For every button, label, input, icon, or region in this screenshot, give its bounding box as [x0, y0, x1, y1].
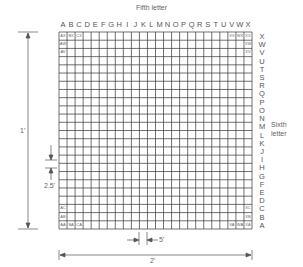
- cell-label: CA: [75, 221, 83, 229]
- cell-label: BX: [67, 32, 75, 40]
- column-width-label: 5': [159, 236, 164, 243]
- cell-label: XC: [244, 204, 252, 212]
- cell-label: WA: [236, 221, 244, 229]
- cell-label: WX: [236, 32, 244, 40]
- cell-label: XA: [244, 221, 252, 229]
- cell-label: AX: [59, 32, 67, 40]
- cell-label: BA: [67, 221, 75, 229]
- vertical-total-label: 1': [20, 127, 25, 134]
- cell-label: AC: [59, 204, 67, 212]
- row-height-dimension: [45, 145, 57, 180]
- cell-label: AB: [59, 213, 67, 221]
- grid-diagram: [0, 0, 303, 267]
- cell-label: XW: [244, 40, 252, 48]
- cell-label: VX: [228, 32, 236, 40]
- cell-label: CX: [75, 32, 83, 40]
- row-height-label: 2.5': [44, 182, 55, 189]
- cell-label: AV: [59, 48, 67, 56]
- horizontal-total-label: 2': [150, 257, 155, 264]
- column-width-dimension: [127, 232, 158, 245]
- cell-label: XX: [244, 32, 252, 40]
- cell-label: AA: [59, 221, 67, 229]
- cell-label: XV: [244, 48, 252, 56]
- cell-label: XB: [244, 213, 252, 221]
- cell-label: AW: [59, 40, 67, 48]
- horizontal-dimension: [59, 250, 252, 260]
- cell-label: VA: [228, 221, 236, 229]
